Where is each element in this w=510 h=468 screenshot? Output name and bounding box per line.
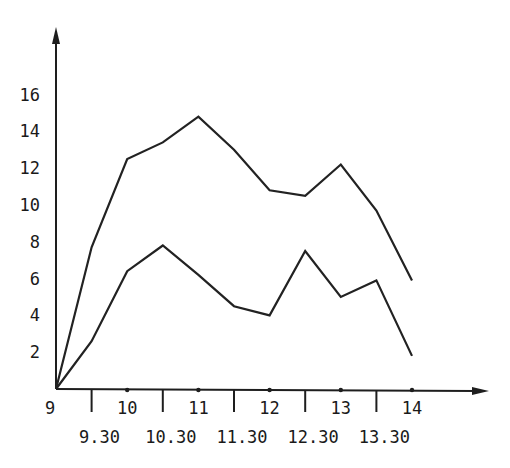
x-half-hour-label: 10.30 bbox=[145, 427, 196, 447]
y-axis-arrow-icon bbox=[52, 27, 60, 44]
y-tick-label: 10 bbox=[20, 195, 40, 215]
x-half-hour-label: 13.30 bbox=[359, 427, 410, 447]
x-hour-dot bbox=[267, 388, 271, 392]
y-tick-label: 16 bbox=[20, 85, 40, 105]
x-half-hour-label: 12.30 bbox=[288, 427, 339, 447]
x-half-hour-label: 11.30 bbox=[216, 427, 267, 447]
x-hour-label: 13 bbox=[331, 398, 351, 418]
series-line-lower bbox=[56, 246, 412, 390]
y-tick-label: 12 bbox=[20, 158, 40, 178]
y-tick-label: 8 bbox=[30, 232, 40, 252]
x-half-hour-labels: 9.3010.3011.3012.3013.30 bbox=[79, 427, 410, 447]
y-tick-label: 14 bbox=[20, 121, 40, 141]
x-hour-label: 11 bbox=[188, 398, 208, 418]
x-hour-label: 12 bbox=[259, 398, 279, 418]
x-hour-label: 9 bbox=[45, 398, 55, 418]
y-tick-label: 6 bbox=[30, 269, 40, 289]
x-hour-label: 14 bbox=[402, 398, 422, 418]
series-lines bbox=[56, 117, 412, 389]
y-tick-labels: 246810121416 bbox=[20, 85, 40, 363]
x-half-hour-label: 9.30 bbox=[79, 427, 120, 447]
y-tick-label: 4 bbox=[30, 305, 40, 325]
x-hour-dot bbox=[125, 388, 129, 392]
y-tick-label: 2 bbox=[30, 342, 40, 362]
y-axis bbox=[52, 27, 60, 389]
x-hour-dot bbox=[196, 388, 200, 392]
x-axis-arrow-icon bbox=[472, 387, 489, 395]
x-axis bbox=[56, 387, 489, 395]
x-hour-dot bbox=[410, 388, 414, 392]
x-hour-label: 10 bbox=[117, 398, 137, 418]
line-chart: 246810121416 91011121314 9.3010.3011.301… bbox=[0, 0, 510, 468]
x-hour-dot bbox=[339, 388, 343, 392]
series-line-upper bbox=[56, 117, 412, 389]
